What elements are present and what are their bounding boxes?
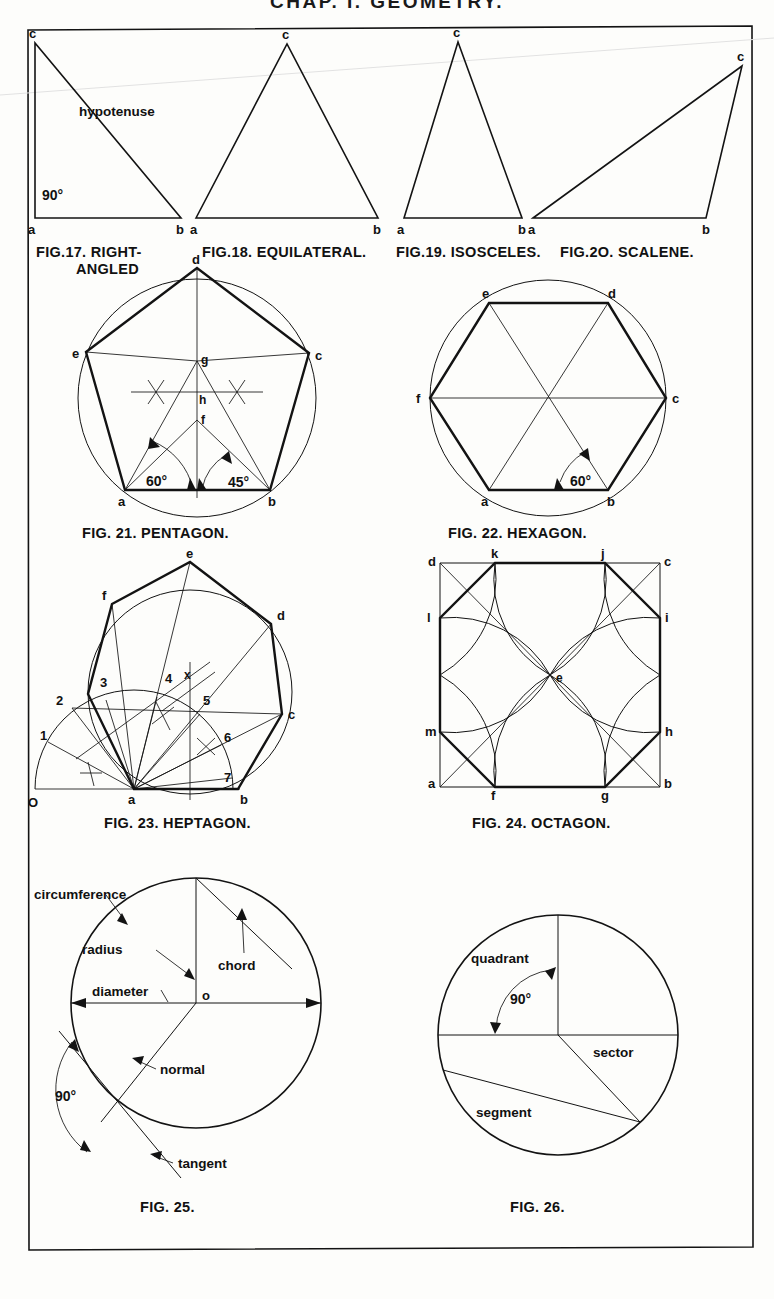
fig22-label-f: f xyxy=(416,391,421,406)
fig23-ray-a-2 xyxy=(72,708,134,789)
fig25-arc-90-arrow-bottom xyxy=(80,1140,91,1152)
fig25-tangent-line xyxy=(59,1031,181,1178)
fig22-label-a: a xyxy=(481,494,489,509)
fig23-div-2: 2 xyxy=(56,693,63,708)
fig18-label-a: a xyxy=(190,222,198,237)
fig23-div-4: 4 xyxy=(165,671,173,686)
fig25-label-tangent: tangent xyxy=(178,1156,227,1171)
fig21-arc-45-arrow-top xyxy=(221,451,232,464)
fig24-label-g: g xyxy=(601,788,609,803)
caption-fig22: FIG. 22. HEXAGON. xyxy=(448,525,587,541)
fig23-label-a: a xyxy=(128,792,136,807)
fig25-diameter-arrow-right xyxy=(306,998,321,1008)
caption-fig20: FIG.2O. SCALENE. xyxy=(560,244,694,260)
fig23-label-O: O xyxy=(28,795,38,810)
fig25-label-chord: chord xyxy=(218,958,256,973)
fig24-label-k: k xyxy=(491,546,499,561)
fig23-div-1: 1 xyxy=(40,728,47,743)
caption-fig21: FIG. 21. PENTAGON. xyxy=(82,525,229,541)
fig24-label-j: j xyxy=(600,546,605,561)
fig23-label-x: x xyxy=(184,668,191,682)
fig23-label-c: c xyxy=(288,707,295,722)
fig23-div-5: 5 xyxy=(203,693,210,708)
fig24-petal-arc-tl xyxy=(494,563,550,675)
fig24-label-i: i xyxy=(665,610,669,625)
fig21-label-e: e xyxy=(72,346,79,361)
fig24-label-m: m xyxy=(425,724,437,739)
fig25-diameter-arrow-left xyxy=(71,998,86,1008)
fig24-label-h: h xyxy=(665,724,673,739)
fig19-triangle xyxy=(404,42,522,218)
fig21-ray-b-to-g xyxy=(197,361,270,490)
fig24-petal-arc-br xyxy=(550,675,606,787)
geometry-plate-page: CHAP. I. GEOMETRY. a b c hypotenuse 90° … xyxy=(0,0,774,1299)
fig22-label-d: d xyxy=(608,286,616,301)
fig23-ray-a-7 xyxy=(134,778,232,789)
fig18-label-b: b xyxy=(373,222,381,237)
fig26-arc-90-arrow-top xyxy=(545,967,556,980)
figure-19-isosceles-triangle: a b c xyxy=(397,25,526,237)
scan-artifact-line xyxy=(0,38,774,95)
fig24-petal-arc-left xyxy=(440,617,550,675)
fig22-angle-60: 60° xyxy=(570,473,591,489)
page-title: CHAP. I. GEOMETRY. xyxy=(0,0,774,13)
fig23-div-3: 3 xyxy=(100,675,107,690)
figure-26-circle-areas: 90° quadrant sector segment xyxy=(438,915,678,1155)
caption-fig18: FIG.18. EQUILATERAL. xyxy=(202,244,366,260)
figure-25-circle-terms: 90° circumference radius chord diameter … xyxy=(34,878,321,1299)
fig20-label-b: b xyxy=(702,222,710,237)
fig17-hypotenuse-label: hypotenuse xyxy=(79,104,155,119)
fig24-petal-arc-left2 xyxy=(440,675,550,733)
fig23-cross-mark-upper xyxy=(152,702,174,730)
fig23-label-f: f xyxy=(102,588,107,603)
fig17-label-c: c xyxy=(29,26,36,41)
fig23-div-6: 6 xyxy=(224,730,231,745)
fig25-leader-tangent-arrow xyxy=(150,1151,162,1160)
figure-22-hexagon: 60° a b c d e f xyxy=(416,280,679,516)
fig22-label-c: c xyxy=(672,391,679,406)
fig23-div-7: 7 xyxy=(224,770,231,785)
fig21-label-g: g xyxy=(201,353,208,367)
fig23-label-b: b xyxy=(240,792,248,807)
fig22-arc-60-arrow-top xyxy=(579,448,590,461)
figure-18-equilateral-triangle: a b c xyxy=(190,27,381,237)
fig24-petal-arc-right2 xyxy=(550,675,660,733)
fig25-chord-line xyxy=(196,878,292,969)
figure-20-scalene-triangle: a b c xyxy=(528,49,744,237)
fig17-label-a: a xyxy=(28,222,36,237)
fig22-label-b: b xyxy=(607,494,615,509)
figure-24-octagon: e a b c d f g h i j k l m xyxy=(425,546,673,803)
fig25-label-o: o xyxy=(202,988,210,1003)
figure-21-pentagon: 60° 45° a b c d e f g h xyxy=(72,252,322,517)
fig20-triangle xyxy=(533,66,742,218)
fig25-leader-normal-arrow xyxy=(132,1056,144,1065)
fig21-label-f: f xyxy=(201,413,206,427)
caption-fig23: FIG. 23. HEPTAGON. xyxy=(104,815,251,831)
fig21-arc-60-arrow-bottom xyxy=(187,478,196,490)
fig24-petal-arc-tr xyxy=(550,563,606,675)
fig24-arc-from-b xyxy=(604,675,660,787)
plate-canvas: a b c hypotenuse 90° a b c a b c a xyxy=(0,0,774,1299)
fig24-label-d: d xyxy=(428,554,436,569)
fig24-petal-arc-bl xyxy=(494,675,550,787)
fig18-label-c: c xyxy=(282,27,289,42)
fig19-label-c: c xyxy=(453,25,460,40)
fig21-arc-45 xyxy=(202,455,226,489)
fig24-label-e: e xyxy=(556,671,563,685)
fig26-angle-90: 90° xyxy=(510,991,531,1007)
fig23-label-d: d xyxy=(277,608,285,623)
caption-fig17-line1: FIG.17. RIGHT- xyxy=(36,244,142,260)
fig19-label-b: b xyxy=(518,222,526,237)
plate-border xyxy=(28,26,753,1250)
fig21-label-d: d xyxy=(192,252,200,267)
fig24-arc-from-c xyxy=(604,563,660,675)
fig23-ext-2-to-c xyxy=(72,708,282,714)
fig21-label-c: c xyxy=(315,348,322,363)
fig26-label-quadrant: quadrant xyxy=(471,951,529,966)
fig25-label-diameter: diameter xyxy=(92,984,149,999)
fig21-pentagon-outline xyxy=(86,268,309,490)
fig23-label-e: e xyxy=(186,546,193,561)
fig25-leader-circumference-arrow xyxy=(117,913,128,925)
fig26-arc-90-arrow-bottom xyxy=(490,1022,501,1034)
fig25-label-radius: radius xyxy=(82,942,123,957)
